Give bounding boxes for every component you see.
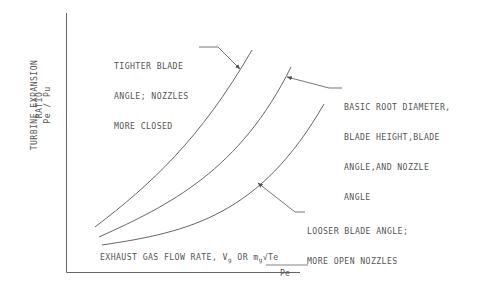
x-axis-label-text: EXHAUST GAS FLOW RATE, bbox=[100, 252, 217, 262]
leader-looser bbox=[258, 183, 305, 212]
x-axis-sqrt-te: √Te bbox=[263, 252, 279, 262]
label-tighter-line2: ANGLE; NOZZLES bbox=[114, 91, 189, 101]
label-basic-line1: BASIC ROOT DIAMETER, bbox=[344, 102, 451, 112]
label-looser: LOOSER BLADE ANGLE; MORE OPEN NOZZLES bbox=[307, 206, 408, 276]
label-looser-line2: MORE OPEN NOZZLES bbox=[307, 256, 408, 266]
label-looser-line1: LOOSER BLADE ANGLE; bbox=[307, 226, 408, 236]
x-axis-or: OR bbox=[237, 252, 248, 262]
label-tighter-line1: TIGHTER BLADE bbox=[114, 61, 189, 71]
x-axis-label: EXHAUST GAS FLOW RATE, Vg OR mg√Te bbox=[100, 252, 279, 263]
label-basic-line3: ANGLE,AND NOZZLE bbox=[344, 162, 451, 172]
x-axis-denominator: Pe bbox=[280, 268, 290, 278]
leader-tighter bbox=[199, 47, 240, 69]
label-basic: BASIC ROOT DIAMETER, BLADE HEIGHT,BLADE … bbox=[344, 82, 451, 212]
x-axis-v-sub: g bbox=[228, 256, 232, 263]
label-tighter-line3: MORE CLOSED bbox=[114, 121, 189, 131]
label-basic-line4: ANGLE bbox=[344, 192, 451, 202]
label-tighter: TIGHTER BLADE ANGLE; NOZZLES MORE CLOSED bbox=[114, 41, 189, 141]
leader-basic bbox=[287, 77, 342, 88]
y-axis-label-line3: Pe / Pu bbox=[42, 55, 52, 155]
label-basic-line2: BLADE HEIGHT,BLADE bbox=[344, 132, 451, 142]
